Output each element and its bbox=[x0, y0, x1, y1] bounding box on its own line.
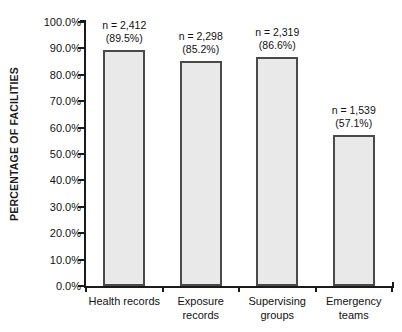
y-axis-tick-label: 100.0% bbox=[26, 15, 86, 29]
y-axis-tick-label: 90.0% bbox=[26, 41, 86, 55]
y-axis-tick-label: 70.0% bbox=[26, 94, 86, 108]
y-axis-tick-mark bbox=[78, 232, 84, 234]
bar bbox=[103, 50, 145, 286]
y-axis-tick-mark bbox=[78, 100, 84, 102]
x-axis-tick-mark bbox=[238, 286, 240, 292]
x-axis-tick-mark bbox=[391, 286, 393, 292]
y-axis-tick-mark bbox=[78, 179, 84, 181]
bar-percent-label: (86.6%) bbox=[232, 39, 322, 52]
y-axis-tick-label: 10.0% bbox=[26, 253, 86, 267]
x-axis-category-label-line: Emergency bbox=[306, 294, 402, 308]
y-axis-tick-label: 40.0% bbox=[26, 173, 86, 187]
y-axis-tick-label: 30.0% bbox=[26, 200, 86, 214]
bar-count-label: n = 2,319 bbox=[232, 26, 322, 39]
y-axis-title: PERCENTAGE OF FACILITIES bbox=[0, 0, 28, 288]
x-axis-tick-mark bbox=[315, 286, 317, 292]
bar-value-label: n = 2,319(86.6%) bbox=[232, 26, 322, 52]
bar-percent-label: (57.1%) bbox=[309, 117, 399, 130]
y-axis-tick-mark bbox=[78, 47, 84, 49]
y-axis-tick-mark bbox=[78, 127, 84, 129]
x-axis-tick-mark bbox=[162, 286, 164, 292]
bar-count-label: n = 1,539 bbox=[309, 104, 399, 117]
y-axis-tick-mark bbox=[78, 74, 84, 76]
bar bbox=[333, 135, 375, 286]
y-axis-tick-mark bbox=[78, 285, 84, 287]
y-axis-tick-label: 0.0% bbox=[26, 279, 86, 293]
bar bbox=[256, 57, 298, 286]
y-axis-tick-label: 20.0% bbox=[26, 226, 86, 240]
y-axis-title-text: PERCENTAGE OF FACILITIES bbox=[8, 67, 20, 221]
bar-chart: PERCENTAGE OF FACILITIES 0.0%10.0%20.0%3… bbox=[0, 0, 402, 332]
y-axis-tick-mark bbox=[78, 259, 84, 261]
bar-value-label: n = 1,539(57.1%) bbox=[309, 104, 399, 130]
y-axis-tick-mark bbox=[78, 153, 84, 155]
bar bbox=[180, 61, 222, 286]
y-axis-tick-label: 80.0% bbox=[26, 68, 86, 82]
y-axis-tick-mark bbox=[78, 206, 84, 208]
y-axis-tick-label: 50.0% bbox=[26, 147, 86, 161]
x-axis-tick-mark bbox=[85, 286, 87, 292]
y-axis-tick-label: 60.0% bbox=[26, 121, 86, 135]
x-axis-category-label: Emergencyteams bbox=[306, 294, 402, 322]
x-axis-category-label-line: teams bbox=[306, 308, 402, 322]
